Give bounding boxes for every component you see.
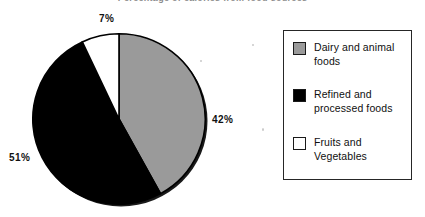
pie-label-dairy: 42% (212, 114, 233, 125)
pie-svg (31, 32, 209, 207)
legend-swatch-refined (293, 89, 306, 102)
pie-chart-graphic (31, 32, 209, 207)
scan-speck (262, 128, 264, 131)
pie-label-fruits: 7% (99, 13, 114, 24)
legend-label-dairy: Dairy and animal foods (314, 41, 409, 68)
legend-label-fruits: Fruits and Vegetables (314, 136, 409, 163)
scan-speck (252, 44, 254, 46)
legend-swatch-fruits (293, 137, 306, 150)
legend-item-fruits: Fruits and Vegetables (293, 136, 409, 163)
legend-item-refined: Refined and processed foods (293, 88, 409, 115)
chart-title: Percentage of calories from food sources (0, 0, 425, 3)
legend-item-dairy: Dairy and animal foods (293, 41, 409, 68)
scan-speck (200, 60, 202, 62)
legend-swatch-dairy (293, 42, 306, 55)
pie-label-refined: 51% (9, 152, 30, 163)
legend-label-refined: Refined and processed foods (314, 88, 409, 115)
pie-chart-figure: Percentage of calories from food sources… (0, 0, 425, 217)
chart-legend: Dairy and animal foods Refined and proce… (283, 30, 412, 180)
